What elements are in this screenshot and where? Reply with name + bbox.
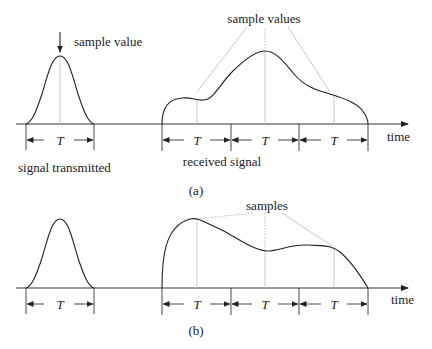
panel-b: T samples T T T time (b) [16,198,414,338]
interval-label-t: T [56,297,64,312]
time-axis-label-a: time [387,129,410,144]
panel-b-caption: (b) [188,323,203,338]
interval-label-t: T [56,133,64,148]
sample-pointer [288,27,330,92]
intersymbol-interference-diagram: sample value T signal transmitted sample… [0,0,432,349]
panel-a-caption: (a) [189,183,203,198]
time-axis-label-b: time [391,292,414,307]
sample-pointer [197,213,252,219]
signal-transmitted-caption: signal transmitted [18,160,111,175]
interval-label-t: T [193,297,201,312]
sample-value-label: sample value [74,34,142,49]
interval-label-t: T [330,133,338,148]
received-signal-caption: received signal [183,154,262,169]
interval-label-t: T [193,133,201,148]
interval-label-t: T [261,297,269,312]
interval-label-t: T [330,297,338,312]
sample-pointer [197,27,247,92]
samples-label: samples [246,198,288,213]
sample-pointer [282,213,332,246]
transmitted-pulse-b [26,219,94,288]
interval-label-t: T [261,133,269,148]
panel-a: sample value T signal transmitted sample… [16,11,410,198]
sample-values-label: sample values [227,11,300,26]
